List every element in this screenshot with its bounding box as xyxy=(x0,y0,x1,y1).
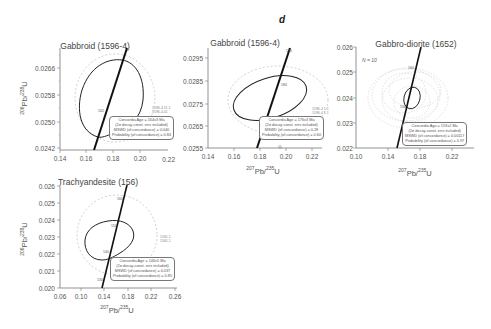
svg-text:150: 150 xyxy=(400,105,406,109)
xtick: 0.16 xyxy=(228,153,241,160)
ytick: 0.026 xyxy=(337,44,353,51)
ytick: 0.020 xyxy=(39,285,55,292)
ytick: 0.023 xyxy=(337,120,353,127)
xtick: 0.14 xyxy=(382,153,395,160)
ytick: 0.0285 xyxy=(183,78,203,85)
minor-labels: 1561.1 1561.1 xyxy=(160,235,171,243)
svg-text:180: 180 xyxy=(281,83,287,87)
xtick: 0.18 xyxy=(122,293,135,300)
svg-text:140: 140 xyxy=(103,250,109,254)
svg-text:190: 190 xyxy=(286,49,292,53)
panel-gabbroid-1: Gabbroid (1596-4) 162 0.0266 0.0258 0.02… xyxy=(0,0,170,175)
panel-gabbro-diorite: Gabbro-diorite (1652) 160 150 N = 10 0.0… xyxy=(320,0,491,190)
xtick: 0.14 xyxy=(54,155,67,162)
svg-text:160: 160 xyxy=(117,197,123,201)
xtick: 0.22 xyxy=(145,293,158,300)
svg-text:150: 150 xyxy=(111,224,117,228)
n-label: N = 10 xyxy=(362,57,377,63)
ytick: 0.022 xyxy=(39,251,55,258)
ytick: 0.025 xyxy=(39,200,55,207)
ytick: 0.026 xyxy=(39,183,55,190)
xtick: 0.18 xyxy=(254,153,267,160)
ytick: 0.0275 xyxy=(183,101,203,108)
y-axis-label: 206Pb/238U xyxy=(19,81,30,114)
concordia-info-box: Concordia Age = 153±2 Ma (2σ decay-const… xyxy=(402,122,467,146)
xtick: 0.22 xyxy=(446,153,459,160)
ytick: 0.0266 xyxy=(35,65,55,72)
ytick: 0.0258 xyxy=(35,92,55,99)
ytick: 0.0250 xyxy=(35,119,55,126)
ytick: 0.022 xyxy=(337,145,353,152)
ytick: 0.023 xyxy=(39,234,55,241)
xtick: 0.26 xyxy=(169,293,182,300)
svg-text:160: 160 xyxy=(408,66,414,70)
ytick: 0.024 xyxy=(337,95,353,102)
xtick: 0.14 xyxy=(202,153,215,160)
concordia-info-box: Concordia Age = 176±3 Ma (2σ decay-const… xyxy=(259,116,324,140)
plot-area: 190 180 xyxy=(150,0,320,190)
ytick: 0.021 xyxy=(39,268,55,275)
svg-text:130: 130 xyxy=(97,278,103,282)
ytick: 0.0265 xyxy=(183,123,203,130)
point-label: 162 xyxy=(98,109,104,113)
ytick: 0.025 xyxy=(337,69,353,76)
xtick: 0.06 xyxy=(54,293,67,300)
xtick: 0.18 xyxy=(414,153,427,160)
x-axis-label: 207Pb/235U xyxy=(398,167,431,178)
panel-trachyandesite: Trachyandesite (156) 160 150 140 130 0.0… xyxy=(0,175,200,329)
xtick: 0.14 xyxy=(98,293,111,300)
xtick: 0.22 xyxy=(306,153,319,160)
xtick: 0.20 xyxy=(280,153,293,160)
ytick: 0.0295 xyxy=(183,55,203,62)
xtick: 0.10 xyxy=(75,293,88,300)
x-axis-label: 207Pb/235U xyxy=(100,304,133,315)
y-axis-label: 206Pb/238U xyxy=(19,222,30,255)
xtick: 0.20 xyxy=(134,155,147,162)
panel-gabbroid-2: Gabbroid (1596-4) 190 180 0.0295 0.0285 … xyxy=(150,0,320,190)
xtick: 0.18 xyxy=(107,155,120,162)
xtick: 0.16 xyxy=(80,155,93,162)
ytick: 0.0255 xyxy=(183,145,203,152)
ytick: 0.0242 xyxy=(35,145,55,152)
x-axis-label: 207Pb/235U xyxy=(246,165,279,176)
concordia-info-box: Concordia Age = 146±5 Ma (2σ decay-const… xyxy=(110,257,175,281)
ytick: 0.024 xyxy=(39,217,55,224)
xtick: 0.10 xyxy=(350,153,363,160)
